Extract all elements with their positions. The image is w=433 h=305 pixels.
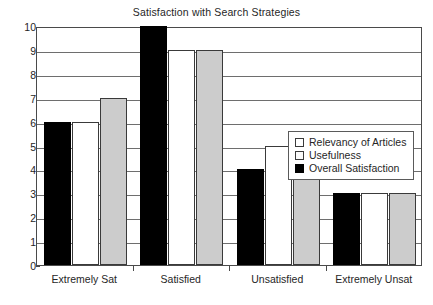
- open-square-white-icon: [295, 138, 304, 147]
- x-tick-mark: [133, 266, 134, 271]
- x-tick-label: Extremely Sat: [52, 273, 117, 285]
- x-tick-mark: [326, 266, 327, 271]
- bar-chart: Satisfaction with Search Strategies 0123…: [0, 0, 433, 305]
- bar-group: [134, 28, 231, 265]
- x-tick-label: Extremely Unsat: [335, 273, 412, 285]
- y-tick-label: 0: [10, 261, 36, 272]
- bar: [361, 193, 388, 265]
- x-tick-mark: [229, 266, 230, 271]
- bar: [333, 193, 360, 265]
- bar: [140, 26, 167, 265]
- filled-square-black-icon: [295, 164, 304, 173]
- y-axis: 012345678910: [0, 27, 36, 266]
- x-tick-label: Satisfied: [161, 273, 201, 285]
- legend-item-label: Relevancy of Articles: [309, 137, 406, 148]
- bar-group: [37, 28, 134, 265]
- legend-item-label: Overall Satisfaction: [309, 163, 399, 174]
- bar: [72, 122, 99, 265]
- bar: [196, 50, 223, 265]
- legend-item: Relevancy of Articles: [295, 136, 406, 149]
- y-tick-label: 6: [10, 117, 36, 128]
- x-tick-label: Unsatisfied: [251, 273, 303, 285]
- bar: [100, 98, 127, 265]
- bar: [44, 122, 71, 265]
- chart-legend: Relevancy of ArticlesUsefulnessOverall S…: [288, 131, 414, 180]
- chart-title: Satisfaction with Search Strategies: [0, 6, 433, 18]
- y-tick-label: 1: [10, 237, 36, 248]
- legend-item-label: Usefulness: [309, 150, 361, 161]
- bar: [237, 169, 264, 265]
- open-square-light-icon: [295, 151, 304, 160]
- y-tick-label: 4: [10, 165, 36, 176]
- y-tick-label: 10: [10, 22, 36, 33]
- y-tick-label: 8: [10, 70, 36, 81]
- legend-item: Overall Satisfaction: [295, 162, 406, 175]
- y-tick-label: 2: [10, 213, 36, 224]
- y-tick-label: 9: [10, 46, 36, 57]
- y-tick-label: 7: [10, 93, 36, 104]
- legend-item: Usefulness: [295, 149, 406, 162]
- bar: [389, 193, 416, 265]
- y-tick-label: 3: [10, 189, 36, 200]
- y-tick-label: 5: [10, 141, 36, 152]
- x-axis: Extremely SatSatisfiedUnsatisfiedExtreme…: [36, 266, 422, 305]
- bar: [168, 50, 195, 265]
